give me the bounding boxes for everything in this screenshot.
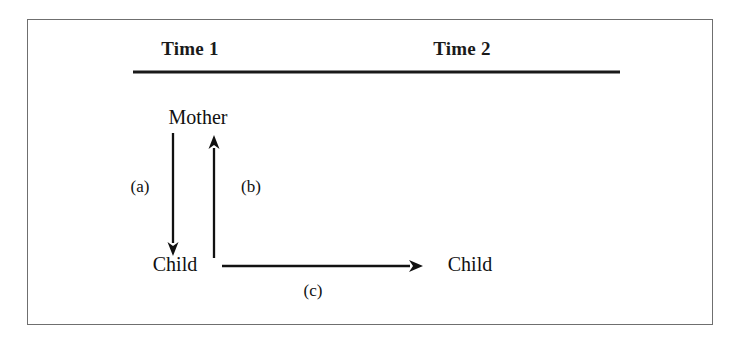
diagram-canvas (0, 0, 735, 342)
arrow-path-c (222, 260, 423, 272)
path-label-a: (a) (110, 177, 170, 197)
arrow-path-b (209, 135, 220, 258)
time-period-header-2: Time 2 (402, 38, 522, 60)
node-mother-time1: Mother (138, 106, 258, 129)
path-label-b: (b) (221, 177, 281, 197)
time-period-header-1: Time 1 (130, 38, 250, 60)
node-child-time1: Child (130, 253, 220, 276)
path-label-c: (c) (283, 281, 343, 301)
node-child-time2: Child (425, 253, 515, 276)
figure-page: Time 1 Time 2 Mother Child Child (a) (b)… (0, 0, 735, 342)
